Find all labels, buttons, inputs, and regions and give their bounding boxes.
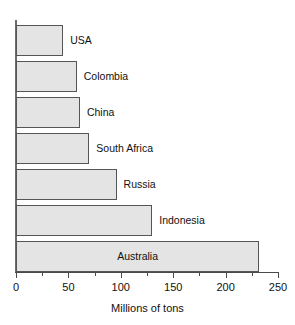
- bar-row: USA: [16, 25, 278, 56]
- x-tick-major: [278, 272, 279, 278]
- x-tick-label: 200: [216, 280, 234, 294]
- x-tick-minor: [95, 272, 96, 276]
- bar-row: Australia: [16, 241, 278, 272]
- x-tick-minor: [147, 272, 148, 276]
- bar-category-label: South Africa: [96, 143, 153, 154]
- x-tick-label: 0: [13, 280, 19, 294]
- x-tick-minor: [252, 272, 253, 276]
- x-tick-label: 100: [112, 280, 130, 294]
- x-tick-label: 250: [269, 280, 287, 294]
- bar-category-label: Russia: [124, 179, 156, 190]
- x-tick-major: [121, 272, 122, 278]
- x-tick-minor: [42, 272, 43, 276]
- bar: [16, 97, 80, 128]
- bar: [16, 169, 117, 200]
- x-tick-label: 50: [62, 280, 74, 294]
- bar-category-label: Indonesia: [159, 215, 205, 226]
- x-tick-major: [226, 272, 227, 278]
- bar: [16, 133, 89, 164]
- bar-category-label: China: [87, 107, 114, 118]
- x-tick-major: [16, 272, 17, 278]
- bar-row: Russia: [16, 169, 278, 200]
- bar: [16, 61, 77, 92]
- bar: [16, 205, 152, 236]
- x-tick-label: 150: [164, 280, 182, 294]
- bar: [16, 25, 63, 56]
- bar-series: USAColombiaChinaSouth AfricaRussiaIndone…: [16, 20, 278, 272]
- x-tick-major: [173, 272, 174, 278]
- bar-row: China: [16, 97, 278, 128]
- x-tick-minor: [199, 272, 200, 276]
- bar-chart: USAColombiaChinaSouth AfricaRussiaIndone…: [0, 0, 295, 325]
- bar-row: Colombia: [16, 61, 278, 92]
- bar-category-label: Colombia: [84, 71, 128, 82]
- x-axis-title: Millions of tons: [0, 301, 295, 315]
- bar-category-label: USA: [70, 35, 92, 46]
- bar-category-label: Australia: [16, 251, 259, 262]
- x-axis-tick-labels: 050100150200250: [16, 280, 278, 296]
- plot-area: USAColombiaChinaSouth AfricaRussiaIndone…: [16, 20, 278, 272]
- x-tick-major: [68, 272, 69, 278]
- bar-row: South Africa: [16, 133, 278, 164]
- bar-row: Indonesia: [16, 205, 278, 236]
